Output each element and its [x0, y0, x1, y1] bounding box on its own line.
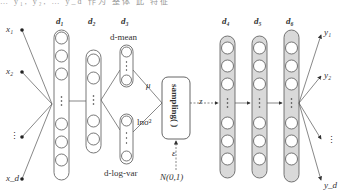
epsilon-label: ε — [172, 148, 176, 158]
layer-d4-column — [220, 36, 235, 178]
input-label-ellipsis: ⋮ — [10, 131, 19, 141]
input-label-xd: x_d — [6, 173, 19, 183]
latent-z-label: z — [199, 96, 203, 106]
d-mean-label: d-mean — [110, 32, 137, 42]
mu-label: μ — [146, 80, 151, 90]
d-mean-column — [120, 45, 133, 87]
layer-d2-column — [86, 50, 101, 153]
layer-label-d1: d₁ — [56, 16, 64, 26]
input-label-x2: x₂ — [6, 66, 13, 76]
input-connections — [22, 30, 52, 179]
layer-d1-column — [54, 30, 69, 180]
d-log-var-column — [120, 114, 133, 164]
layer-label-d4: d₄ — [222, 16, 230, 26]
layer-label-d2: d₂ — [88, 16, 96, 26]
output-label-y2: y₂ — [324, 70, 331, 80]
layer-label-d5: d₅ — [254, 16, 262, 26]
input-nodes — [20, 28, 24, 181]
layer-d6-column — [284, 30, 299, 182]
sampling-label: sampling( ) — [170, 84, 180, 127]
layer-label-d6: d₆ — [286, 16, 294, 26]
output-connections — [299, 35, 321, 180]
layer-label-d3: d₃ — [121, 16, 129, 26]
layer-d5-column — [252, 36, 267, 178]
d-log-var-label: d-log-var — [104, 168, 138, 178]
noise-distribution-label: N(0,1) — [160, 172, 183, 182]
output-label-yd: y_d — [324, 180, 337, 190]
input-label-x1: x₁ — [6, 24, 13, 34]
output-label-ellipsis: ⋮ — [327, 135, 336, 145]
output-label-y1: y₁ — [324, 27, 331, 37]
lnsigma-label: lnσ² — [137, 117, 152, 127]
